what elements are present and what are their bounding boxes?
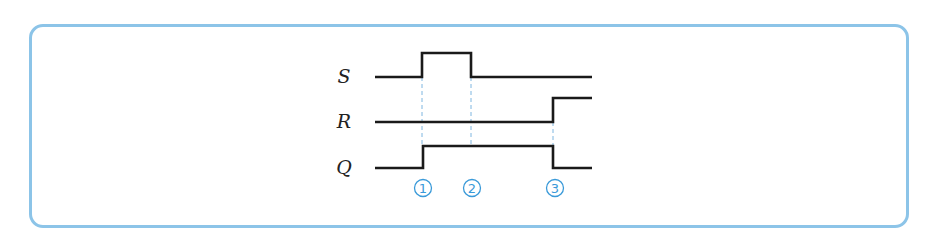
signal-s: S <box>337 53 592 87</box>
signal-q: Q <box>336 146 592 178</box>
marker-number: 1 <box>419 181 427 196</box>
waveform <box>375 146 592 168</box>
timing-diagram: SRQ 123 <box>0 0 943 247</box>
signal-waveforms: SRQ <box>336 53 592 178</box>
marker-number: 3 <box>551 181 559 196</box>
waveform <box>375 98 592 122</box>
waveform <box>375 53 592 77</box>
signal-label: R <box>336 110 351 132</box>
signal-label: S <box>337 65 350 87</box>
marker-2: 2 <box>464 180 481 197</box>
guide-lines <box>422 77 553 146</box>
marker-1: 1 <box>415 180 432 197</box>
signal-label: Q <box>336 156 352 178</box>
signal-r: R <box>336 98 592 132</box>
marker-3: 3 <box>547 180 564 197</box>
marker-number: 2 <box>468 181 476 196</box>
event-markers: 123 <box>415 180 564 197</box>
